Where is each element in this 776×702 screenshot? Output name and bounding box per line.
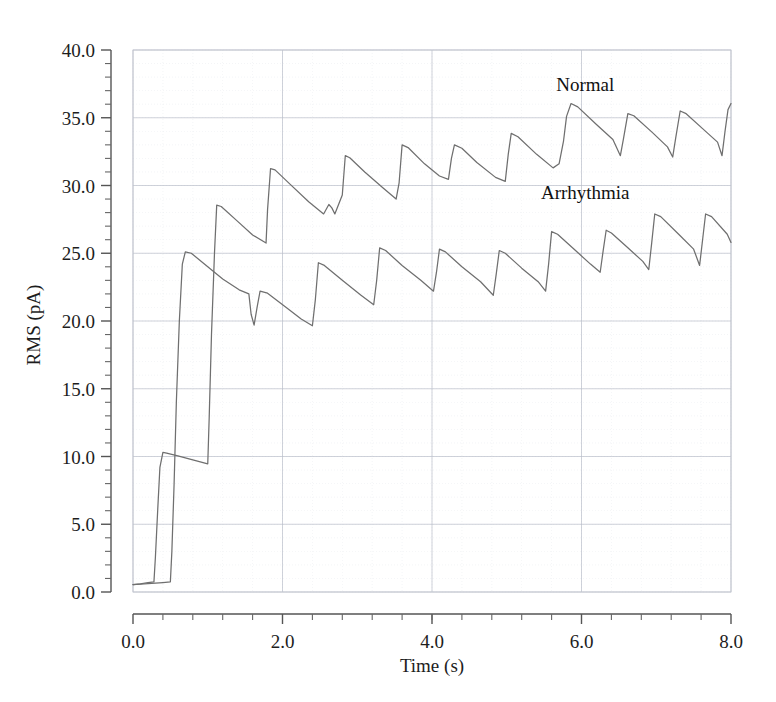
x-tick-label: 4.0 <box>420 631 444 652</box>
y-tick-label: 5.0 <box>71 514 95 535</box>
series-annotation-arrhythmia: Arrhythmia <box>541 182 630 203</box>
y-tick-label: 35.0 <box>62 108 95 129</box>
x-tick-label: 6.0 <box>570 631 594 652</box>
y-tick-label: 20.0 <box>62 311 95 332</box>
y-tick-label: 10.0 <box>62 447 95 468</box>
rms-vs-time-line-chart: 0.05.010.015.020.025.030.035.040.0 0.02.… <box>0 0 776 702</box>
chart-figure: 0.05.010.015.020.025.030.035.040.0 0.02.… <box>0 0 776 702</box>
x-axis-title: Time (s) <box>400 655 464 677</box>
x-tick-label: 0.0 <box>121 631 145 652</box>
y-tick-label: 25.0 <box>62 243 95 264</box>
y-tick-label: 0.0 <box>71 582 95 603</box>
y-tick-label: 40.0 <box>62 40 95 61</box>
y-axis-title: RMS (pA) <box>23 285 45 366</box>
x-tick-label: 8.0 <box>719 631 743 652</box>
series-annotation-normal: Normal <box>556 74 614 95</box>
y-tick-label: 15.0 <box>62 379 95 400</box>
y-tick-label: 30.0 <box>62 176 95 197</box>
x-tick-label: 2.0 <box>271 631 295 652</box>
chart-background <box>0 0 776 702</box>
